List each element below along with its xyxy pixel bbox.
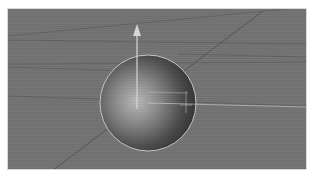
3d-viewport[interactable]: 3D Perspective Viewport (8, 9, 306, 169)
viewport-canvas[interactable] (8, 9, 306, 169)
